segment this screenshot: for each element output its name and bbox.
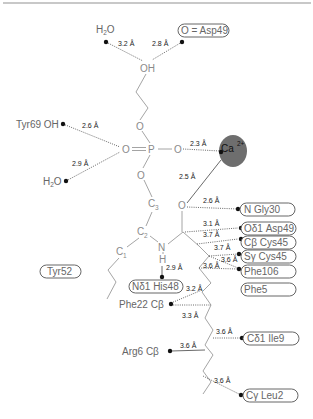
interaction-lines [63, 42, 241, 395]
svg-text:Sγ Cys45: Sγ Cys45 [244, 251, 287, 262]
distance-asp49-od1: 3.1 Å [203, 219, 220, 227]
ether-o1-label: O [136, 121, 144, 132]
residue-gly30: N Gly30 [240, 203, 295, 216]
hydroxyl-label: OH [140, 63, 155, 74]
distance-h2o-top: 3.2 Å [118, 39, 135, 47]
svg-text:N Gly30: N Gly30 [244, 204, 281, 215]
distance-gly30: 2.6 Å [203, 196, 220, 204]
svg-text:Cγ Leu2: Cγ Leu2 [246, 390, 284, 401]
carbonyl-o-label: O [178, 200, 186, 211]
svg-text:Tyr52: Tyr52 [47, 266, 72, 277]
residue-phe106: Phe106 [241, 265, 296, 278]
distance-h2o-low: 2.9 Å [72, 159, 89, 167]
residue-his48: Nδ1 His48 [129, 280, 183, 293]
amide-n-label: N [158, 242, 165, 253]
residue-ile9: Cδ1 Ile9 [243, 332, 299, 345]
residue-tyr52: Tyr52 [40, 265, 81, 278]
tyr69-label: Tyr69 OH [16, 119, 59, 130]
residue-phe5: Phe5 [241, 283, 296, 296]
distance-tyr69: 2.6 Å [82, 121, 99, 129]
h2o-low-label: H2O [43, 176, 62, 188]
binding-site-diagram: Ca 2+ OH O O P O O C 3 C 2 C 1 O N H [0, 0, 313, 419]
svg-text:Cβ Cys45: Cβ Cys45 [244, 237, 289, 248]
svg-text:O = Asp49: O = Asp49 [181, 25, 228, 36]
svg-text:Oδ1 Asp49: Oδ1 Asp49 [244, 223, 294, 234]
arg6-label: Arg6 Cβ [122, 346, 159, 357]
svg-text:Phe5: Phe5 [244, 284, 268, 295]
distance-asp49-o: 2.8 Å [152, 39, 169, 47]
residue-cys45-sg: Sγ Cys45 [241, 250, 296, 263]
c1-subscript: 1 [123, 252, 127, 259]
residue-leu2: Cγ Leu2 [243, 389, 298, 402]
svg-text:Cδ1 Ile9: Cδ1 Ile9 [247, 333, 285, 344]
residue-asp49-o: O = Asp49 [178, 24, 229, 37]
phosphorus-label: P [148, 144, 155, 155]
distance-leu2: 3.6 Å [214, 376, 231, 384]
residue-cys45-cb: Cβ Cys45 [241, 236, 296, 249]
svg-text:Nδ1 His48: Nδ1 His48 [132, 281, 179, 292]
c3-subscript: 3 [155, 204, 159, 211]
distance-cys45-cb: 3.7 Å [203, 230, 220, 238]
c2-subscript: 2 [144, 232, 148, 239]
distance-phe106-b: 3.6 Å [203, 261, 220, 269]
h2o-top-label: H2O [96, 24, 115, 36]
distance-ca-o: 2.3 Å [190, 139, 207, 147]
distance-ca-carbonyl: 2.5 Å [179, 172, 196, 180]
distance-ile9: 3.6 Å [216, 327, 233, 335]
distance-cys45-sg: 3.7 Å [214, 243, 231, 251]
residue-asp49-od1: Oδ1 Asp49 [241, 222, 296, 235]
phosphate-o-double-label: O [122, 144, 130, 155]
calcium-charge: 2+ [237, 140, 245, 147]
partner-dots [61, 40, 244, 397]
distance-phe22-b: 3.3 Å [182, 311, 199, 319]
distance-phe106-a: 3.6 Å [221, 255, 238, 263]
distance-phe22-a: 3.2 Å [186, 284, 203, 292]
ether-o2-label: O [137, 170, 145, 181]
phosphate-o-ca-label: O [174, 144, 182, 155]
distance-his48: 2.9 Å [166, 263, 183, 271]
svg-text:Phe106: Phe106 [244, 266, 279, 277]
phe22-label: Phe22 Cβ [119, 299, 164, 310]
distance-arg6: 3.6 Å [180, 341, 197, 349]
